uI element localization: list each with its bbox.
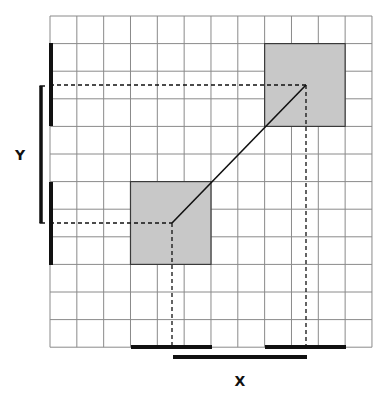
- x-axis-label: X: [235, 373, 246, 389]
- diagram-canvas: Y X: [0, 0, 385, 401]
- y-measure-bars: [40, 43, 52, 265]
- displacement-diagram: Y X: [0, 0, 385, 401]
- y-axis-label: Y: [14, 147, 26, 163]
- x-measure-bars: [131, 347, 346, 357]
